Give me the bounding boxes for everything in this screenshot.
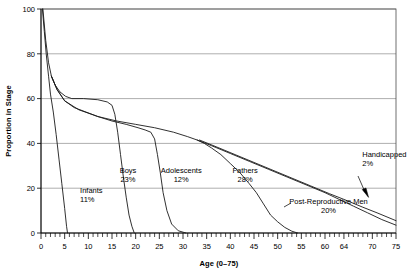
x-tick-label-60: 60 xyxy=(321,242,329,251)
annotation-value-infants: 11% xyxy=(80,195,95,204)
annotation-value-boys: 23% xyxy=(120,175,135,184)
x-tick-label-15: 15 xyxy=(108,242,116,251)
x-tick-label-50: 50 xyxy=(273,242,281,251)
x-axis-title: Age (0–75) xyxy=(200,259,239,268)
x-tick-label-40: 40 xyxy=(226,242,234,251)
annotation-label-boys: Boys xyxy=(120,166,137,175)
x-tick-label-20: 20 xyxy=(131,242,139,251)
annotation-label-fathers: Fathers xyxy=(232,166,258,175)
x-tick-label-0: 0 xyxy=(39,242,43,251)
annotation-value-fathers: 28% xyxy=(238,175,253,184)
annotation-label-infants: Infants xyxy=(80,186,103,195)
x-tick-label-64: 64 xyxy=(340,242,348,251)
annotation-label-adolescents: Adolescents xyxy=(161,166,202,175)
y-axis-title: Proportion in Stage xyxy=(4,85,13,156)
x-tick-label-30: 30 xyxy=(179,242,187,251)
annotation-label-post-reproductive-men: Post-Reproductive Men xyxy=(289,197,367,206)
x-tick-label-10: 10 xyxy=(84,242,92,251)
annotation-boys: Boys23% xyxy=(120,166,137,184)
y-tick-label-20: 20 xyxy=(27,184,35,193)
annotation-label-handicapped: Handicapped xyxy=(362,150,406,159)
annotation-value-handicapped: 2% xyxy=(362,159,373,168)
x-tick-label-45: 45 xyxy=(250,242,258,251)
annotation-value-adolescents: 12% xyxy=(174,175,189,184)
x-tick-label-25: 25 xyxy=(155,242,163,251)
x-tick-label-35: 35 xyxy=(202,242,210,251)
y-tick-label-0: 0 xyxy=(31,229,35,238)
x-tick-label-75: 75 xyxy=(392,242,400,251)
x-tick-label-70: 70 xyxy=(368,242,376,251)
x-tick-label-5: 5 xyxy=(63,242,67,251)
y-tick-label-40: 40 xyxy=(27,139,35,148)
annotation-value-post-reproductive-men: 20% xyxy=(321,206,336,215)
y-tick-label-100: 100 xyxy=(22,5,35,14)
chart-figure: 020406080100 051015202530354045505560647… xyxy=(0,0,414,276)
y-tick-label-80: 80 xyxy=(27,50,35,59)
y-tick-label-60: 60 xyxy=(27,94,35,103)
proportion-in-stage-chart: 020406080100 051015202530354045505560647… xyxy=(0,0,414,276)
x-tick-label-55: 55 xyxy=(297,242,305,251)
